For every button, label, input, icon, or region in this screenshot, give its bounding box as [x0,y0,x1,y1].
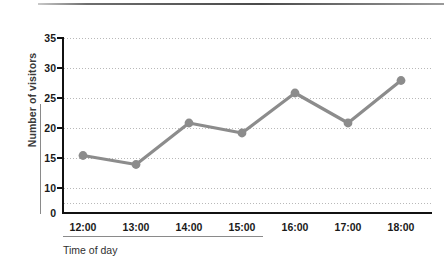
chart-figure: Number of visitors Time of day 35 30 25 … [0,0,445,271]
y-axis [57,37,63,213]
data-point-15-00 [238,129,247,138]
data-point-16-00 [291,89,300,98]
data-series-line [83,81,401,165]
data-point-17-00 [344,119,353,128]
gridlines [64,38,431,203]
data-point-13-00 [132,160,141,169]
data-point-markers [79,76,406,169]
data-point-12-00 [79,151,88,160]
data-point-18-00 [397,76,406,85]
data-point-14-00 [185,119,194,128]
plot-area [0,0,445,271]
